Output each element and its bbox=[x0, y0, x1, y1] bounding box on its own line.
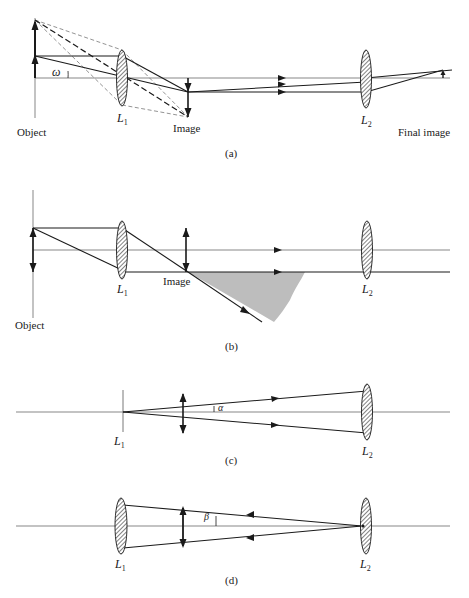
lens1-label: L1 bbox=[113, 434, 125, 450]
panel-b: L1 Image L2 Object (b) bbox=[15, 190, 450, 353]
lens2-label: L2 bbox=[361, 282, 373, 298]
image-arrow-icon bbox=[180, 393, 187, 434]
caption-d: (d) bbox=[225, 574, 238, 587]
focal-point bbox=[361, 524, 364, 527]
final-image-label: Final image bbox=[398, 126, 450, 138]
ray-arrows bbox=[278, 75, 286, 95]
lens2-label: L2 bbox=[359, 557, 371, 573]
lens-l2 bbox=[362, 221, 373, 279]
panel-c: α L1 L2 (c) bbox=[16, 384, 450, 467]
lens2-label: L2 bbox=[360, 113, 372, 129]
caption-c: (c) bbox=[225, 454, 238, 467]
panel-d: β L1 L2 (d) bbox=[16, 498, 450, 587]
lens-l2 bbox=[362, 384, 373, 440]
object-arrow-icon bbox=[32, 20, 39, 78]
caption-a: (a) bbox=[225, 147, 238, 160]
image-arrow-icon bbox=[185, 78, 192, 117]
lens-l1 bbox=[115, 498, 127, 554]
lens1-label: L1 bbox=[116, 282, 128, 298]
shaded-region bbox=[188, 272, 305, 322]
image-label: Image bbox=[173, 122, 201, 134]
lens2-label: L2 bbox=[361, 444, 373, 460]
lens-l1 bbox=[117, 221, 128, 279]
caption-b: (b) bbox=[225, 340, 238, 353]
optics-figure: ω Object L1 Image L2 Final image (a) bbox=[0, 0, 469, 598]
panel-a: ω Object L1 Image L2 Final image (a) bbox=[17, 18, 452, 160]
lens-l2 bbox=[361, 50, 372, 108]
lens1-label: L1 bbox=[114, 557, 126, 573]
object-label: Object bbox=[15, 319, 44, 331]
image-label: Image bbox=[163, 275, 191, 287]
lens1-label: L1 bbox=[116, 111, 128, 127]
solid-rays bbox=[123, 505, 362, 548]
angle-alpha-label: α bbox=[218, 402, 224, 413]
solid-rays bbox=[35, 56, 452, 92]
object-label: Object bbox=[17, 126, 46, 138]
angle-beta-label: β bbox=[203, 511, 209, 522]
angle-omega-label: ω bbox=[52, 65, 60, 79]
lens-l1 bbox=[117, 50, 128, 106]
